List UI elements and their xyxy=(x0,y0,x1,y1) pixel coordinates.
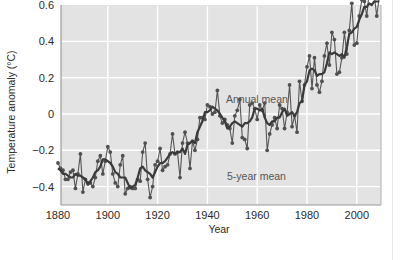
data-point xyxy=(91,185,95,189)
data-point xyxy=(330,30,334,34)
y-axis-label: Temperature anomaly (°C) xyxy=(5,50,17,173)
data-point xyxy=(323,54,327,58)
y-tick-labels: 0.60.40.20−0.2−0.4 xyxy=(32,0,54,193)
data-point xyxy=(313,56,317,60)
data-point xyxy=(143,141,147,145)
data-point xyxy=(138,179,142,183)
data-point xyxy=(290,125,294,129)
data-point xyxy=(305,65,309,69)
data-point xyxy=(113,181,117,185)
data-point xyxy=(141,150,145,154)
y-tick-label: −0.2 xyxy=(32,144,54,156)
data-point xyxy=(328,63,332,67)
data-point xyxy=(123,192,127,196)
data-point xyxy=(158,147,162,151)
x-tick-label: 1900 xyxy=(96,209,120,221)
data-point xyxy=(275,127,279,131)
data-point xyxy=(332,38,336,42)
x-tick-label: 1940 xyxy=(195,209,219,221)
data-point xyxy=(235,108,239,112)
temperature-anomaly-chart: 0.60.40.20−0.2−0.4 188019001920194019601… xyxy=(0,0,401,260)
y-tick-label: 0.6 xyxy=(39,0,54,11)
data-point xyxy=(233,114,237,118)
y-tick-label: −0.4 xyxy=(32,181,54,193)
data-point xyxy=(193,148,197,152)
data-point xyxy=(283,127,287,131)
x-tick-labels: 1880190019201940196019802000 xyxy=(46,209,369,221)
data-point xyxy=(66,177,70,181)
x-tick-label: 1880 xyxy=(46,209,70,221)
data-point xyxy=(116,185,120,189)
data-point xyxy=(79,152,83,156)
data-point xyxy=(74,187,78,191)
data-point xyxy=(56,161,60,165)
data-point xyxy=(121,154,125,158)
data-point xyxy=(81,190,85,194)
data-point xyxy=(101,172,105,176)
data-point xyxy=(220,121,224,125)
y-tick-label: 0.4 xyxy=(39,35,54,47)
data-point xyxy=(268,132,272,136)
data-point xyxy=(106,145,110,149)
x-tick-label: 1960 xyxy=(245,209,269,221)
data-point xyxy=(350,1,354,5)
data-point xyxy=(245,147,249,151)
data-point xyxy=(375,14,379,18)
data-point xyxy=(298,79,302,83)
data-point xyxy=(183,130,187,134)
annual-mean-label: Annual mean xyxy=(226,93,288,105)
y-tick-label: 0.2 xyxy=(39,72,54,84)
data-point xyxy=(355,41,359,45)
data-point xyxy=(161,168,165,172)
data-point xyxy=(71,168,75,172)
data-point xyxy=(156,159,160,163)
data-point xyxy=(320,79,324,83)
data-point xyxy=(337,70,341,74)
data-point xyxy=(288,83,292,87)
x-tick-label: 1980 xyxy=(295,209,319,221)
data-point xyxy=(318,90,322,94)
data-point xyxy=(181,141,185,145)
data-point xyxy=(118,163,122,167)
x-axis-label: Year xyxy=(208,223,230,235)
y-tick-label: 0 xyxy=(48,108,54,120)
data-point xyxy=(365,14,369,18)
data-point xyxy=(295,130,299,134)
data-point xyxy=(151,185,155,189)
data-point xyxy=(178,176,182,180)
data-point xyxy=(166,163,170,167)
x-tick-label: 1920 xyxy=(145,209,169,221)
data-point xyxy=(148,196,152,200)
data-point xyxy=(325,41,329,45)
data-point xyxy=(265,148,269,152)
data-point xyxy=(362,0,366,3)
data-point xyxy=(342,30,346,34)
data-point xyxy=(215,89,219,93)
data-point xyxy=(98,154,102,158)
page-edge-divider xyxy=(392,0,393,260)
data-point xyxy=(308,54,312,58)
data-point xyxy=(146,177,150,181)
data-point xyxy=(230,141,234,145)
five-year-mean-label: 5-year mean xyxy=(227,170,286,182)
data-point xyxy=(108,150,112,154)
data-point xyxy=(255,118,259,122)
data-point xyxy=(96,159,100,163)
data-point xyxy=(315,83,319,87)
data-point xyxy=(171,132,175,136)
data-point xyxy=(111,172,115,176)
data-point xyxy=(310,87,314,91)
x-tick-label: 2000 xyxy=(345,209,369,221)
data-point xyxy=(153,163,157,167)
data-point xyxy=(243,138,247,142)
data-point xyxy=(188,167,192,171)
